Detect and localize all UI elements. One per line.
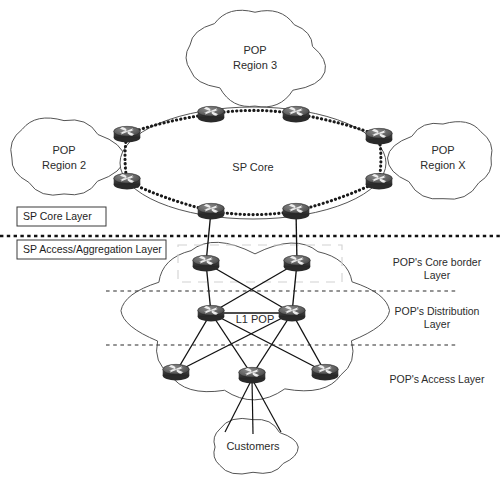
cloud-pop-region-x-label-line2: Region X xyxy=(420,159,466,171)
router-pop-border-left[interactable] xyxy=(193,255,220,271)
label-box-sp-access-aggregation-layer-text: SP Access/Aggregation Layer xyxy=(23,243,162,255)
label-pop-core-border-layer-line2: Layer xyxy=(424,269,451,281)
router-core-bottom-right[interactable] xyxy=(283,203,310,219)
label-pop-distribution-layer-line2: Layer xyxy=(424,318,451,330)
sp-core-label: SP Core xyxy=(232,161,273,173)
router-core-top-right[interactable] xyxy=(283,106,310,122)
router-core-left-lower[interactable] xyxy=(114,173,141,189)
cloud-pop-region-2-label-line2: Region 2 xyxy=(42,159,86,171)
cloud-pop-region-2-outline xyxy=(11,118,125,195)
router-core-bottom-left[interactable] xyxy=(198,203,225,219)
cloud-pop-region-2 xyxy=(11,118,125,195)
label-boxes-layer: SP Core LayerSP Access/Aggregation Layer xyxy=(17,207,166,259)
router-pop-distribution-left[interactable] xyxy=(198,305,225,321)
diagram-canvas: POPRegion 3POPRegion 2POPRegion XL1 POPC… xyxy=(0,0,503,479)
router-core-right-lower[interactable] xyxy=(366,173,393,189)
router-pop-access-right[interactable] xyxy=(312,364,339,380)
cloud-pop-region-3-label-line1: POP xyxy=(243,44,266,56)
router-pop-access-left[interactable] xyxy=(163,364,190,380)
label-pop-access-layer-line1: POP's Access Layer xyxy=(390,373,485,385)
router-core-top-left[interactable] xyxy=(198,106,225,122)
router-core-left-upper[interactable] xyxy=(114,126,141,142)
label-box-sp-core-layer-text: SP Core Layer xyxy=(23,210,92,222)
router-pop-access-center[interactable] xyxy=(239,367,266,383)
cloud-l1-pop-label-line1: L1 POP xyxy=(236,313,275,325)
label-pop-distribution-layer-line1: POP's Distribution xyxy=(395,305,480,317)
cloud-pop-region-x-label-line1: POP xyxy=(431,144,454,156)
label-box-sp-access-aggregation-layer: SP Access/Aggregation Layer xyxy=(17,240,166,259)
cloud-pop-region-2-label-line1: POP xyxy=(52,144,75,156)
router-core-right-upper[interactable] xyxy=(366,128,393,144)
label-box-sp-core-layer: SP Core Layer xyxy=(17,207,106,226)
cloud-customers-label-line1: Customers xyxy=(226,440,280,452)
router-pop-border-right[interactable] xyxy=(284,255,311,271)
router-pop-distribution-right[interactable] xyxy=(279,305,306,321)
network-diagram: POPRegion 3POPRegion 2POPRegion XL1 POPC… xyxy=(0,0,503,479)
label-pop-core-border-layer-line1: POP's Core border xyxy=(393,256,482,268)
cloud-pop-region-3-label-line2: Region 3 xyxy=(233,59,277,71)
